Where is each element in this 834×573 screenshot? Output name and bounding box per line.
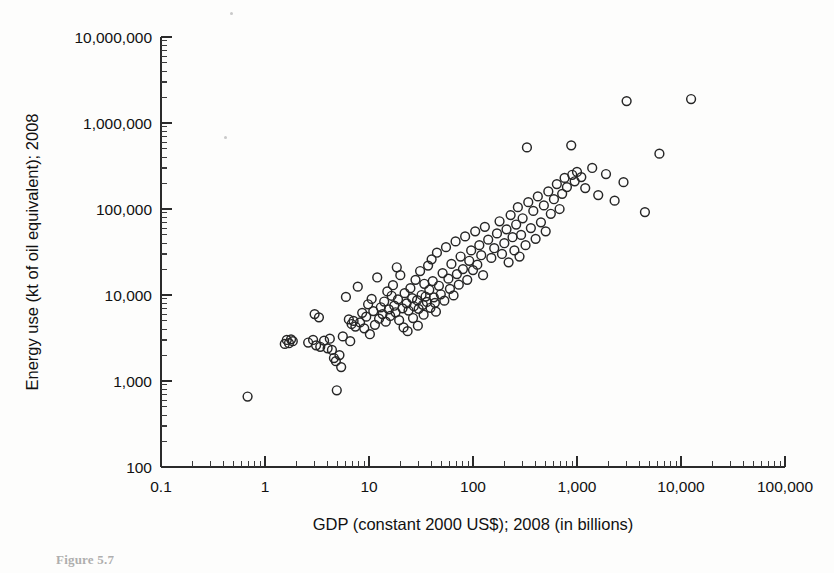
data-point	[495, 217, 504, 226]
y-tick-label: 1,000	[113, 373, 152, 390]
data-point	[451, 237, 460, 246]
data-point	[471, 227, 480, 236]
data-point	[500, 239, 509, 248]
y-tick-label: 10,000,000	[74, 29, 152, 46]
data-point	[513, 203, 522, 212]
data-point	[461, 232, 470, 241]
data-point	[524, 198, 533, 207]
data-point	[655, 149, 664, 158]
data-point	[567, 141, 576, 150]
data-point	[411, 275, 420, 284]
data-point	[413, 321, 422, 330]
data-point	[498, 250, 507, 259]
data-point	[546, 209, 555, 218]
data-point	[506, 211, 515, 220]
data-point	[406, 284, 415, 293]
data-point	[531, 234, 540, 243]
data-point	[452, 270, 461, 279]
data-point	[508, 233, 517, 242]
data-point	[480, 222, 489, 231]
data-point	[537, 218, 546, 227]
data-point	[459, 265, 468, 274]
x-tick-label: 1,000	[558, 478, 597, 495]
figure-container: 0.11101001,00010,000100,0001001,00010,00…	[0, 0, 834, 573]
data-point	[463, 275, 472, 284]
data-point	[550, 195, 559, 204]
scatter-plot: 0.11101001,00010,000100,0001001,00010,00…	[0, 0, 834, 573]
data-point	[602, 170, 611, 179]
data-point	[428, 277, 437, 286]
data-point	[687, 95, 696, 104]
data-point	[504, 258, 513, 267]
data-point	[581, 184, 590, 193]
data-point	[484, 235, 493, 244]
data-point	[444, 274, 453, 283]
data-point	[563, 183, 572, 192]
data-point	[419, 310, 428, 319]
y-tick-label: 10,000	[105, 287, 153, 304]
data-point	[521, 241, 530, 250]
data-point	[420, 279, 429, 288]
data-point	[342, 293, 351, 302]
data-point	[365, 330, 374, 339]
data-point	[435, 281, 444, 290]
data-point	[456, 252, 465, 261]
data-point	[594, 191, 603, 200]
data-point	[493, 229, 502, 238]
data-point	[518, 214, 527, 223]
scan-speck	[224, 136, 227, 139]
data-point	[619, 178, 628, 187]
data-point	[396, 271, 405, 280]
data-point	[490, 244, 499, 253]
axes-group	[161, 37, 785, 467]
scan-speck	[230, 12, 233, 15]
y-tick-label: 100,000	[96, 201, 152, 218]
data-point	[526, 224, 535, 233]
x-tick-label: 10	[360, 478, 378, 495]
data-point	[552, 180, 561, 189]
data-point	[447, 259, 456, 268]
tick-labels-group: 0.11101001,00010,000100,0001001,00010,00…	[74, 29, 813, 496]
x-tick-label: 100	[460, 478, 486, 495]
data-point	[510, 246, 519, 255]
ticks-group	[161, 37, 785, 467]
data-point	[467, 246, 476, 255]
x-tick-label: 100,000	[757, 478, 813, 495]
data-point	[533, 192, 542, 201]
data-point	[641, 208, 650, 217]
data-point	[332, 386, 341, 395]
data-point	[544, 187, 553, 196]
data-point	[517, 230, 526, 239]
data-point	[515, 252, 524, 261]
data-point	[555, 205, 564, 214]
data-point	[337, 363, 346, 372]
data-points-group	[243, 95, 695, 401]
data-point	[610, 196, 619, 205]
data-point	[487, 254, 496, 263]
data-point	[477, 251, 486, 260]
x-tick-label: 1	[261, 478, 270, 495]
data-point	[373, 273, 382, 282]
data-point	[475, 241, 484, 250]
x-tick-label: 10,000	[657, 478, 705, 495]
data-point	[622, 97, 631, 106]
data-point	[346, 337, 355, 346]
data-point	[353, 282, 362, 291]
data-point	[325, 334, 334, 343]
figure-caption: Figure 5.7	[56, 552, 114, 569]
data-point	[541, 227, 550, 236]
data-point	[371, 320, 380, 329]
data-point	[454, 280, 463, 289]
data-point	[479, 271, 488, 280]
x-tick-label: 0.1	[150, 478, 172, 495]
y-axis-title: Energy use (kt of oil equivalent); 2008	[23, 114, 41, 391]
data-point	[442, 243, 451, 252]
data-point	[502, 225, 511, 234]
y-tick-label: 100	[126, 459, 152, 476]
data-point	[433, 248, 442, 257]
data-point	[588, 164, 597, 173]
x-axis-title: GDP (constant 2000 US$); 2008 (in billio…	[313, 515, 634, 533]
data-point	[539, 201, 548, 210]
data-point	[523, 143, 532, 152]
data-point	[529, 207, 538, 216]
